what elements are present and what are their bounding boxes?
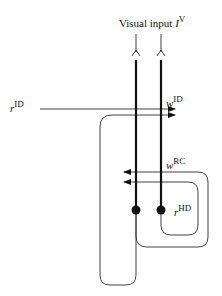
unit-node-right — [157, 206, 166, 215]
w-id-superscript: ID — [173, 94, 183, 104]
unit-node-left — [132, 206, 141, 215]
circuit-diagram — [0, 0, 222, 296]
w-id-label: wID — [166, 98, 183, 109]
visual-input-lines — [132, 34, 165, 56]
visual-input-text: Visual input — [119, 17, 172, 29]
visual-input-superscript: V — [179, 14, 186, 24]
visual-input-label: Visual input IV — [119, 18, 185, 29]
unit-dendrites — [136, 60, 161, 210]
w-rc-superscript: RC — [173, 156, 185, 166]
r-hd-label: rHD — [174, 207, 191, 218]
left-feedback-loop — [100, 115, 175, 285]
w-rc-label: wRC — [166, 160, 185, 171]
r-hd-superscript: HD — [178, 203, 191, 213]
r-id-label: rID — [10, 103, 24, 114]
r-id-superscript: ID — [14, 99, 24, 109]
